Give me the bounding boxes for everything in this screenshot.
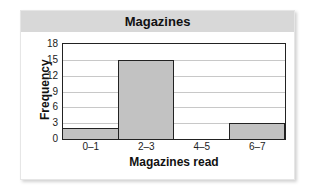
y-tick-label: 9 [40, 86, 58, 97]
gridline [63, 92, 285, 93]
bar-2–3 [118, 60, 175, 140]
bar-6–7 [229, 123, 286, 140]
chart-title: Magazines [21, 11, 294, 32]
y-tick-label: 18 [40, 38, 58, 49]
y-tick-label: 6 [40, 101, 58, 112]
bar-0–1 [62, 128, 119, 140]
y-tick-label: 3 [40, 117, 58, 128]
x-axis-label: Magazines read [62, 155, 286, 169]
gridline [63, 107, 285, 108]
x-tick-label: 0–1 [71, 141, 111, 152]
chart-card: Magazines Frequency 0369121518 0–12–34–5… [20, 10, 295, 180]
gridline [63, 60, 285, 61]
x-tick-label: 6–7 [237, 141, 277, 152]
x-tick-label: 4–5 [182, 141, 222, 152]
y-tick-label: 0 [40, 133, 58, 144]
y-tick-label: 12 [40, 70, 58, 81]
gridline [63, 76, 285, 77]
y-tick-label: 15 [40, 54, 58, 65]
x-tick-label: 2–3 [126, 141, 166, 152]
plot-area [62, 43, 286, 140]
